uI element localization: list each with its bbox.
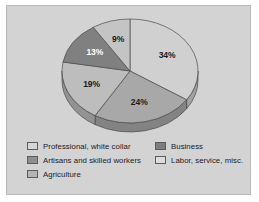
legend-item-business[interactable]: Business (155, 139, 255, 153)
legend-label-labor: Labor, service, misc. (171, 156, 243, 165)
pie-chart-area: 34%24%19%13%9% (7, 6, 252, 138)
pie-slice-label: 9% (112, 34, 125, 44)
legend-label-business: Business (171, 142, 203, 151)
legend-swatch-artisans (27, 156, 38, 164)
legend-column-right: Business Labor, service, misc. (155, 139, 255, 167)
legend-label-agriculture: Agriculture (43, 170, 81, 179)
legend-column-left: Professional, white collar Artisans and … (27, 139, 157, 181)
legend-label-professional: Professional, white collar (43, 142, 131, 151)
legend-item-labor[interactable]: Labor, service, misc. (155, 153, 255, 167)
pie-slice-label: 13% (86, 47, 103, 57)
legend-label-artisans: Artisans and skilled workers (43, 156, 141, 165)
pie-slice-label: 34% (159, 50, 176, 60)
legend-swatch-business (155, 142, 166, 150)
chart-figure: 34%24%19%13%9% Professional, white colla… (6, 5, 251, 195)
legend-swatch-professional (27, 142, 38, 150)
legend-item-agriculture[interactable]: Agriculture (27, 167, 157, 181)
legend-swatch-agriculture (27, 170, 38, 178)
chart-legend: Professional, white collar Artisans and … (7, 139, 252, 195)
pie-slice-label: 24% (131, 97, 148, 107)
legend-item-artisans[interactable]: Artisans and skilled workers (27, 153, 157, 167)
legend-item-professional[interactable]: Professional, white collar (27, 139, 157, 153)
pie-chart-svg: 34%24%19%13%9% (7, 6, 252, 138)
pie-slice-label: 19% (83, 79, 100, 89)
legend-swatch-labor (155, 156, 166, 164)
